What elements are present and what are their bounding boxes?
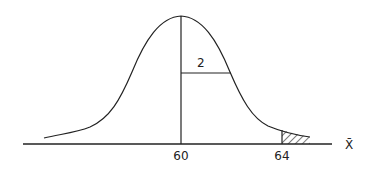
mean-label: 60	[173, 149, 188, 163]
axis-label: X̄	[345, 138, 353, 152]
shaded-tail-region	[282, 130, 310, 144]
normal-curve-diagram: 2 60 64 X̄	[0, 0, 374, 173]
bell-curve	[44, 16, 310, 138]
sd-label: 2	[197, 56, 205, 70]
cutoff-label: 64	[274, 149, 289, 163]
